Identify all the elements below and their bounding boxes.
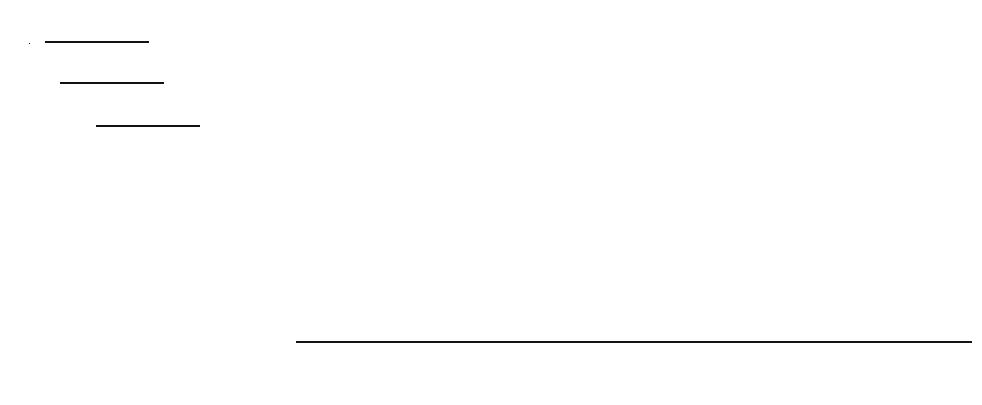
- field-spread-blank[interactable]: [60, 82, 164, 84]
- field-shape-blank[interactable]: [96, 125, 200, 127]
- normal-curve-figure: [284, 4, 982, 374]
- field-center-blank[interactable]: [45, 41, 149, 43]
- field-spread: [24, 67, 164, 88]
- normal-curve-svg: [284, 4, 982, 374]
- field-center: [24, 26, 149, 47]
- clipped-top-text: [96, 0, 516, 3]
- field-shape: [24, 110, 200, 131]
- worksheet-page: [0, 0, 982, 405]
